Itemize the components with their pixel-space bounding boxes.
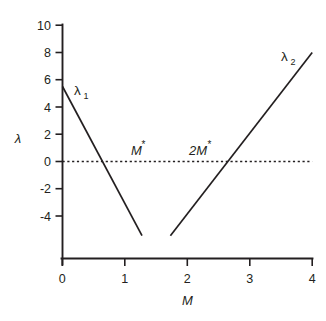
x-axis-title: M: [182, 293, 193, 308]
series-label-lambda2: λ 2: [281, 49, 296, 67]
y-tick-label-6: -2: [40, 182, 51, 196]
annotation-m-star: M *: [131, 139, 146, 158]
x-tick-label-3: 3: [246, 272, 253, 286]
x-tick-label-4: 4: [309, 272, 316, 286]
series-label-lambda1: λ 1: [74, 83, 89, 101]
x-tick-label-2: 2: [184, 272, 191, 286]
lambda2-glyph: λ: [281, 49, 288, 64]
x-tick-label-0: 0: [59, 272, 66, 286]
annotation-two-m-star: 2M *: [188, 139, 212, 158]
y-tick-label-2: 6: [44, 73, 51, 87]
m-star-superscript: *: [142, 139, 146, 150]
x-tick-label-1: 1: [121, 272, 128, 286]
lambda1-glyph: λ: [74, 83, 81, 98]
line-chart-svg: 10 8 6 4 2 0 -2 -4 0 1 2 3 4 λ M λ 1: [0, 0, 326, 321]
y-tick-label-5: 0: [44, 155, 51, 169]
chart-figure: 10 8 6 4 2 0 -2 -4 0 1 2 3 4 λ M λ 1: [0, 0, 326, 321]
y-axis-title: λ: [14, 131, 21, 146]
y-tick-label-0: 10: [37, 19, 51, 33]
x-axis: [62, 259, 313, 267]
two-m-star-superscript: *: [208, 139, 212, 150]
two-m-star-main: 2M: [188, 143, 207, 158]
y-tick-labels: 10 8 6 4 2 0 -2 -4: [37, 19, 51, 224]
y-tick-label-1: 8: [44, 46, 51, 60]
y-tick-label-4: 2: [44, 128, 51, 142]
x-tick-labels: 0 1 2 3 4: [59, 272, 316, 286]
y-axis: [56, 25, 63, 265]
y-tick-label-7: -4: [40, 210, 51, 224]
lambda2-subscript: 2: [291, 57, 296, 67]
m-star-main: M: [131, 143, 142, 158]
lambda1-subscript: 1: [84, 91, 89, 101]
y-tick-label-3: 4: [44, 101, 51, 115]
